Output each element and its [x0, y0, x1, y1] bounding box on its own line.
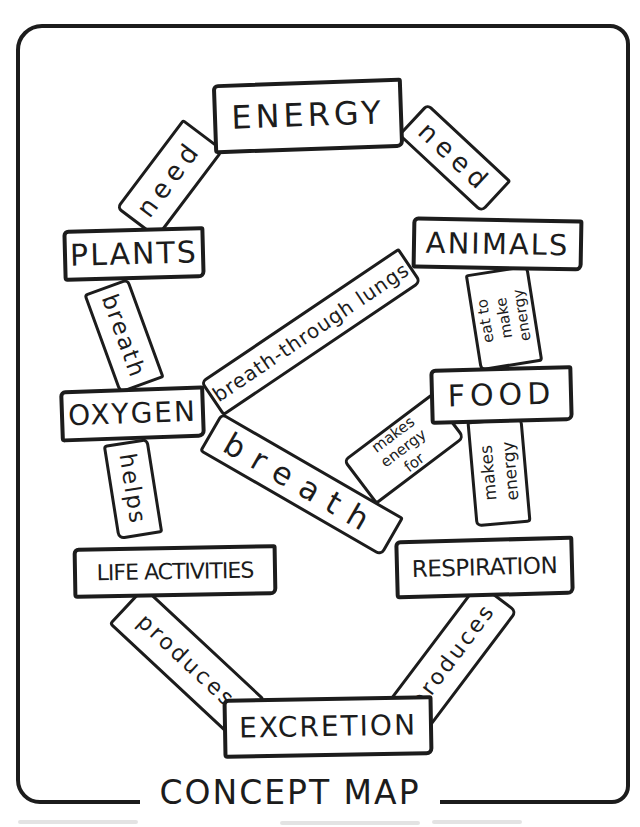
node-food: FOOD	[429, 365, 573, 425]
scan-artifact	[280, 821, 420, 825]
node-respiration: RESPIRATION	[394, 536, 574, 600]
node-life-activities: LIFE ACTIVITIES	[73, 544, 278, 599]
concept-map-page: need need breath breath-through lungs ea…	[0, 0, 640, 827]
node-oxygen: OXYGEN	[59, 385, 206, 442]
connector-makes-energy-text: makes energy	[474, 441, 523, 504]
node-excretion: EXCRETION	[222, 695, 433, 759]
node-energy: ENERGY	[212, 78, 404, 155]
scan-artifact	[18, 820, 138, 824]
map-title: CONCEPT MAP	[140, 769, 440, 816]
scan-artifact	[432, 820, 522, 824]
connector-eat-to-make-energy-text: eat to make energy	[472, 288, 536, 348]
node-animals: ANIMALS	[412, 217, 584, 272]
connector-makes-energy: makes energy	[466, 417, 531, 527]
node-plants: PLANTS	[62, 226, 205, 282]
